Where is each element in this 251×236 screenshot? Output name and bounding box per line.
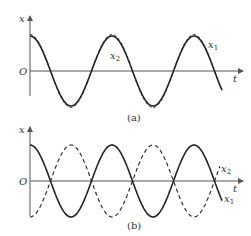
curve-label-x2: x2 xyxy=(221,163,231,176)
x-axis-label: t xyxy=(233,73,238,84)
panel-a: x t O x1 x2 (a) xyxy=(19,13,243,123)
panel-b: x t O x2 x1 (b) xyxy=(19,124,243,231)
origin-label: O xyxy=(19,66,27,77)
origin-label: O xyxy=(19,176,27,187)
y-axis-label: x xyxy=(19,124,25,135)
y-axis-label: x xyxy=(19,13,25,24)
curve-label-x1: x1 xyxy=(208,39,218,52)
caption-b: (b) xyxy=(127,220,141,231)
oscillation-diagram: x t O x1 x2 (a) x t O x2 x1 (b) xyxy=(0,0,251,236)
curve-label-x2: x2 xyxy=(110,50,120,63)
curve-label-x1: x1 xyxy=(224,193,234,206)
caption-a: (a) xyxy=(127,112,141,123)
x-axis-label: t xyxy=(233,183,238,194)
